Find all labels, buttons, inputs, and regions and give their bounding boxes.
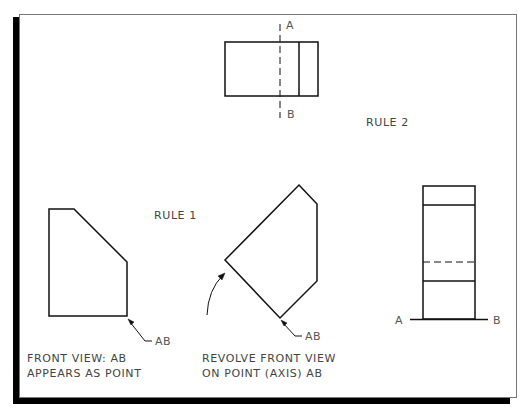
axis-label-a-side: A (395, 314, 403, 327)
revolved-view-outline (225, 185, 317, 318)
axis-label-a-top: A (286, 19, 294, 32)
side-view (410, 186, 488, 320)
revolved-view (207, 185, 317, 336)
rule-2-label: RULE 2 (366, 116, 409, 129)
frame-shadow-bottom (13, 398, 510, 404)
side-view-outline (423, 186, 475, 319)
revolved-point-label: AB (305, 330, 321, 343)
frame-shadow-left (13, 17, 19, 404)
revolved-caption-line2: ON POINT (AXIS) AB (202, 367, 323, 380)
top-view (225, 24, 318, 118)
front-caption-line2: APPEARS AS POINT (27, 367, 141, 380)
arrow-head-front (128, 319, 134, 325)
arrow-head-revolved (281, 320, 287, 326)
top-view-outline (225, 42, 318, 96)
axis-label-b-top: B (287, 108, 295, 121)
axis-label-b-side: B (493, 314, 501, 327)
revolved-caption-line1: REVOLVE FRONT VIEW (202, 352, 336, 365)
front-view (49, 209, 152, 341)
front-caption-line1: FRONT VIEW: AB (27, 352, 127, 365)
leader-line-front-diag (130, 322, 145, 341)
drawing-canvas: A B RULE 2 RULE 1 AB AB A B FRONT VIEW: … (0, 0, 525, 410)
front-point-label: AB (155, 335, 171, 348)
front-view-outline (49, 209, 127, 316)
drawing-frame (13, 15, 517, 405)
revolve-arc-arrow (207, 275, 223, 315)
rule-1-label: RULE 1 (154, 209, 197, 222)
frame-border (20, 15, 517, 398)
